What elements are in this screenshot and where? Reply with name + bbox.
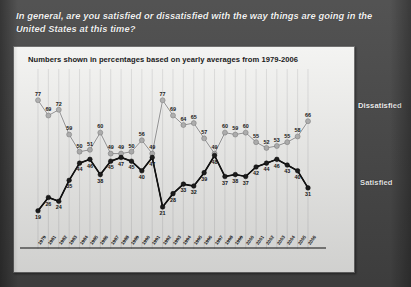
svg-text:47: 47 bbox=[118, 161, 124, 167]
svg-text:52: 52 bbox=[263, 139, 269, 145]
svg-text:55: 55 bbox=[284, 133, 290, 139]
legend-item-satisfied: Satisfied bbox=[360, 178, 393, 187]
svg-text:59: 59 bbox=[232, 125, 238, 131]
svg-text:60: 60 bbox=[243, 123, 249, 129]
svg-text:58: 58 bbox=[295, 127, 301, 133]
svg-text:19: 19 bbox=[35, 214, 41, 220]
svg-text:39: 39 bbox=[201, 176, 207, 182]
svg-text:56: 56 bbox=[139, 131, 145, 137]
svg-text:37: 37 bbox=[243, 180, 249, 186]
svg-text:49: 49 bbox=[108, 144, 114, 150]
svg-text:49: 49 bbox=[118, 144, 124, 150]
chart-panel: Numbers shown in percentages based on ye… bbox=[13, 46, 355, 273]
svg-text:65: 65 bbox=[191, 114, 197, 120]
svg-text:57: 57 bbox=[201, 129, 207, 135]
svg-text:45: 45 bbox=[108, 164, 114, 170]
svg-text:31: 31 bbox=[305, 191, 311, 197]
svg-text:60: 60 bbox=[222, 123, 228, 129]
svg-text:42: 42 bbox=[253, 170, 259, 176]
svg-text:64: 64 bbox=[180, 116, 186, 122]
svg-text:49: 49 bbox=[149, 144, 155, 150]
svg-text:24: 24 bbox=[56, 204, 62, 210]
chart-svg: 7769725950516049495056497769646557496059… bbox=[14, 69, 354, 249]
svg-text:53: 53 bbox=[274, 137, 280, 143]
legend-item-dissatisfied: Dissatisfied bbox=[358, 101, 402, 110]
presentation-slide: In general, are you satisfied or dissati… bbox=[0, 0, 411, 287]
svg-text:69: 69 bbox=[45, 106, 51, 112]
svg-text:55: 55 bbox=[253, 133, 259, 139]
svg-text:47: 47 bbox=[149, 161, 155, 167]
svg-text:40: 40 bbox=[295, 174, 301, 180]
svg-text:44: 44 bbox=[263, 166, 269, 172]
svg-text:77: 77 bbox=[35, 91, 41, 97]
svg-text:59: 59 bbox=[66, 125, 72, 131]
svg-text:45: 45 bbox=[128, 164, 134, 170]
svg-text:32: 32 bbox=[191, 189, 197, 195]
svg-text:51: 51 bbox=[87, 141, 93, 147]
svg-text:46: 46 bbox=[87, 163, 93, 169]
svg-text:28: 28 bbox=[170, 197, 176, 203]
svg-text:72: 72 bbox=[56, 101, 62, 107]
svg-text:38: 38 bbox=[232, 178, 238, 184]
svg-text:66: 66 bbox=[305, 112, 311, 118]
svg-text:37: 37 bbox=[222, 180, 228, 186]
svg-text:33: 33 bbox=[180, 187, 186, 193]
svg-text:50: 50 bbox=[128, 143, 134, 149]
svg-text:38: 38 bbox=[97, 178, 103, 184]
svg-text:21: 21 bbox=[160, 210, 166, 216]
chart-subtitle: Numbers shown in percentages based on ye… bbox=[28, 55, 298, 64]
line-chart-plot-area: 7769725950516049495056497769646557496059… bbox=[14, 69, 354, 249]
svg-text:44: 44 bbox=[77, 166, 83, 172]
svg-text:35: 35 bbox=[66, 183, 72, 189]
svg-text:77: 77 bbox=[160, 91, 166, 97]
slide-question-title: In general, are you satisfied or dissati… bbox=[16, 10, 376, 35]
svg-text:43: 43 bbox=[284, 168, 290, 174]
vertical-gridlines bbox=[38, 69, 308, 249]
svg-text:60: 60 bbox=[97, 123, 103, 129]
svg-text:26: 26 bbox=[45, 201, 51, 207]
svg-text:46: 46 bbox=[274, 163, 280, 169]
svg-text:69: 69 bbox=[170, 106, 176, 112]
svg-text:40: 40 bbox=[139, 174, 145, 180]
svg-text:48: 48 bbox=[212, 159, 218, 165]
svg-text:50: 50 bbox=[77, 143, 83, 149]
x-axis-year-labels: 1979198119821983198419851986198719881989… bbox=[14, 243, 354, 271]
svg-text:49: 49 bbox=[212, 144, 218, 150]
